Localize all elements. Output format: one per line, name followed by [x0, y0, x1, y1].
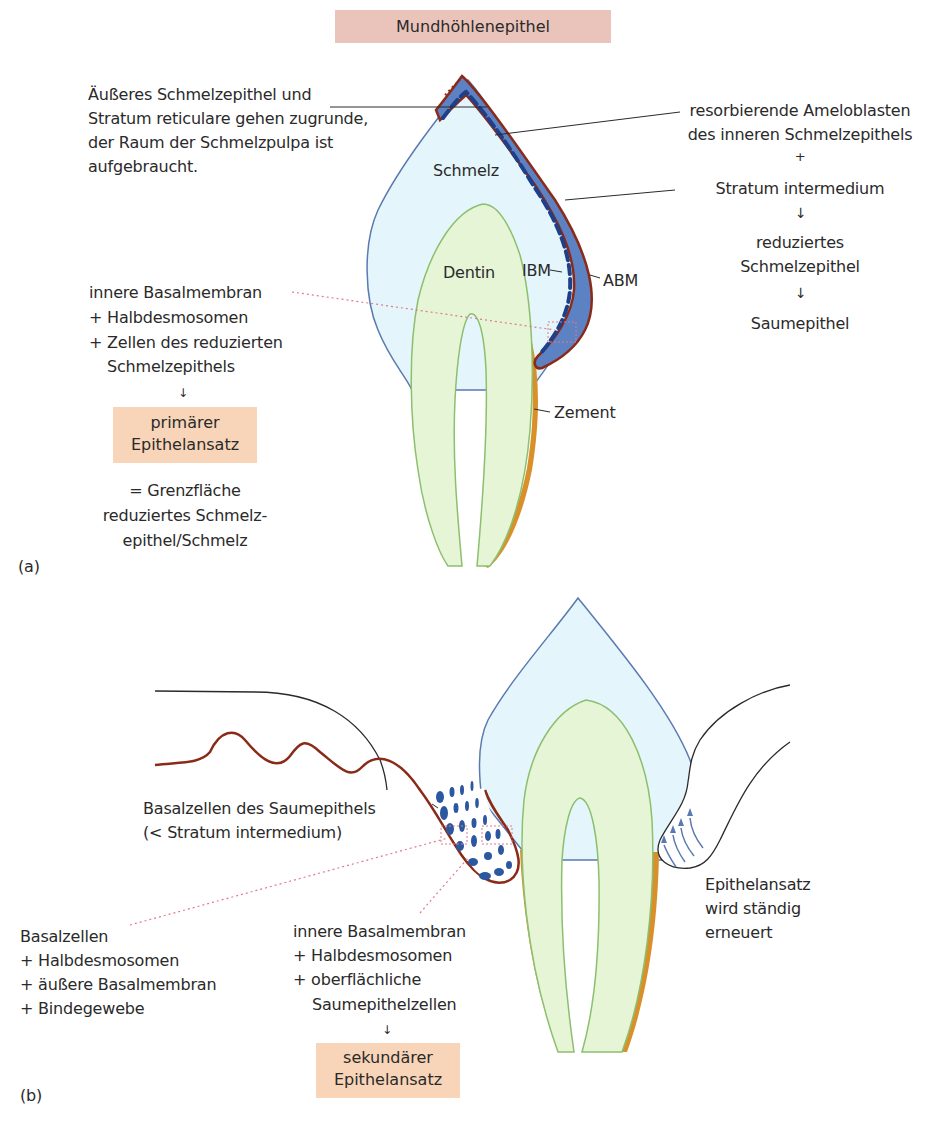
flow-arrow-2: ↓ [795, 286, 805, 300]
definition-line3: epithel/Schmelz [85, 530, 285, 552]
basal-cells-label-line1: Basalzellen des Saumepithels [143, 798, 376, 820]
ibm-label: IBM [522, 260, 551, 282]
outer-component-1: Basalzellen [20, 926, 108, 948]
secondary-attachment-box: sekundärer Epithelansatz [316, 1043, 460, 1098]
dentin-label: Dentin [443, 262, 495, 284]
definition-line2: reduziertes Schmelz- [85, 505, 285, 527]
primary-attachment-box: primärer Epithelansatz [113, 407, 257, 463]
abm-label: ABM [603, 270, 638, 292]
secondary-attachment-line1: sekundärer [316, 1047, 460, 1069]
outer-component-4: + Bindegewebe [20, 998, 144, 1020]
inner-component-2: + Halbdesmosomen [293, 945, 452, 967]
definition-line1: = Grenzfläche [85, 480, 285, 502]
inner-component-3: + oberflächliche [293, 969, 421, 991]
junctional-epithelium-label: Saumepithel [680, 313, 920, 335]
basal-cells-label-line2: (< Stratum intermedium) [143, 822, 342, 844]
primary-component-3: + Zellen des reduzierten [89, 332, 283, 354]
outer-component-3: + äußere Basalmembran [20, 974, 216, 996]
inner-component-4: Saumepithelzellen [312, 994, 457, 1016]
secondary-arrow: ↓ [382, 1023, 392, 1037]
plus-sign: + [680, 150, 920, 164]
renewal-note-line1: Epithelansatz [705, 874, 811, 896]
cement-label: Zement [554, 402, 615, 424]
primary-attachment-line2: Epithelansatz [113, 434, 257, 456]
panel-b-label: (b) [20, 1085, 42, 1107]
dentin-b [522, 700, 653, 1052]
panel-a-tooth [292, 76, 680, 568]
ameloblasts-line2: des inneren Schmelzepithels [680, 124, 920, 146]
stratum-intermedium-label: Stratum intermedium [680, 178, 920, 200]
ameloblasts-line1: resorbierende Ameloblasten [680, 100, 920, 122]
primary-component-1: innere Basalmembran [89, 282, 262, 304]
primary-attachment-line1: primärer [113, 412, 257, 434]
primary-component-4: Schmelzepithels [107, 356, 235, 378]
inner-component-1: innere Basalmembran [293, 921, 466, 943]
gingiva-outline-left [155, 691, 387, 790]
outer-enamel-note-line4: aufgebraucht. [88, 156, 198, 178]
secondary-attachment-line2: Epithelansatz [316, 1069, 460, 1091]
header-oral-epithelium: Mundhöhlenepithel [335, 10, 611, 43]
enamel-label: Schmelz [433, 160, 499, 182]
header-text: Mundhöhlenepithel [396, 17, 550, 36]
outer-component-2: + Halbdesmosomen [20, 950, 179, 972]
renewal-note-line2: wird ständig [705, 898, 801, 920]
outer-enamel-note-line1: Äußeres Schmelzepithel und [88, 84, 311, 106]
primary-component-2: + Halbdesmosomen [89, 307, 248, 329]
reduced-epithelium-line2: Schmelzepithel [680, 256, 920, 278]
reduced-epithelium-line1: reduziertes [680, 232, 920, 254]
renewal-note-line3: erneuert [705, 922, 772, 944]
panel-a-label: (a) [18, 556, 40, 578]
flow-arrow-1: ↓ [795, 206, 805, 220]
primary-arrow: ↓ [178, 386, 188, 400]
outer-enamel-note-line3: der Raum der Schmelzpulpa ist [88, 132, 333, 154]
outer-enamel-note-line2: Stratum reticulare gehen zugrunde, [88, 108, 368, 130]
